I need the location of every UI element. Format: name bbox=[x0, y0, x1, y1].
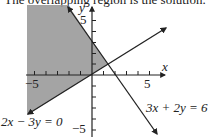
x-tick-label-neg5: −5 bbox=[25, 76, 39, 92]
solution-region bbox=[27, 5, 108, 115]
line1-label: 3x + 2y = 6 bbox=[146, 100, 208, 116]
x-tick-label-5: 5 bbox=[144, 76, 151, 92]
x-axis-label: x bbox=[162, 59, 168, 75]
line2-label: 2x − 3y = 0 bbox=[1, 114, 63, 130]
y-tick-label-neg5: −5 bbox=[72, 121, 86, 137]
y-tick-label-5: 5 bbox=[80, 12, 87, 28]
